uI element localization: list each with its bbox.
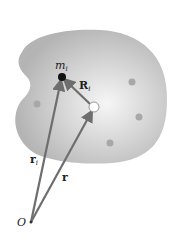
particle-dot [129, 79, 136, 86]
label-r-cm: r [62, 171, 68, 184]
particle-dot [136, 114, 143, 121]
rigid-body-diagram: mi Ri ri r O [0, 0, 177, 246]
center-of-mass-marker [89, 102, 99, 112]
particle-dot [34, 101, 41, 108]
label-r-i: ri [30, 153, 38, 167]
origin-dot [30, 221, 33, 224]
label-origin: O [17, 216, 26, 229]
rigid-body-shape [15, 30, 167, 164]
mass-i-dot [58, 73, 66, 81]
particle-dot [107, 140, 114, 147]
